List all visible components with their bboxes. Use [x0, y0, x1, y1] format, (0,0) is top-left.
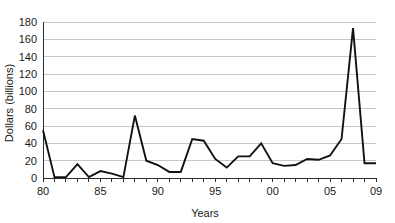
x-tick-label: 95 [209, 185, 221, 197]
x-tick-label: 05 [324, 185, 336, 197]
x-tick-label: 85 [94, 185, 106, 197]
y-tick-label: 100 [19, 85, 37, 97]
x-axis-title: Years [191, 207, 219, 219]
x-tick-marks-group [43, 178, 376, 182]
x-tick-label: 90 [152, 185, 164, 197]
x-tick-label: 80 [37, 185, 49, 197]
chart-container: 020406080100120140160180 80859095000509 … [0, 0, 395, 223]
x-tick-label: 09 [370, 185, 382, 197]
y-tick-label: 120 [19, 68, 37, 80]
y-tick-label: 160 [19, 33, 37, 45]
y-tick-labels-group: 020406080100120140160180 [19, 16, 37, 184]
line-chart: 020406080100120140160180 80859095000509 … [0, 0, 395, 223]
y-tick-label: 140 [19, 51, 37, 63]
y-axis-title: Dollars (billions) [3, 64, 15, 142]
y-tick-label: 0 [31, 172, 37, 184]
y-tick-label: 40 [25, 137, 37, 149]
x-tick-label: 00 [267, 185, 279, 197]
axis-lines-group [43, 22, 376, 178]
y-tick-label: 180 [19, 16, 37, 28]
y-tick-label: 80 [25, 103, 37, 115]
gridlines-group [43, 22, 376, 161]
x-tick-labels-group: 80859095000509 [37, 185, 382, 197]
data-series-line [43, 28, 376, 177]
y-tick-label: 20 [25, 155, 37, 167]
y-tick-label: 60 [25, 120, 37, 132]
